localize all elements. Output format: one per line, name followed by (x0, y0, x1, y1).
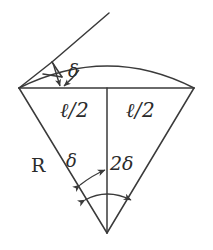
circular-arc (19, 66, 194, 88)
label-half-chord-right: ℓ/2 (126, 100, 155, 120)
label-delta-tangent-angle: δ (68, 62, 79, 80)
diagram-canvas (0, 0, 213, 250)
label-delta-half-apex-angle: δ (66, 152, 77, 170)
delta-angle-arc-arrow (80, 170, 105, 185)
label-half-chord-left: ℓ/2 (60, 100, 89, 120)
label-two-delta-apex-angle: 2δ (110, 154, 134, 173)
tangent-line (52, 13, 109, 62)
label-radius-R: R (31, 156, 45, 175)
two-delta-angle-arc-arrow (85, 194, 131, 200)
geometry-diagram: ℓ/2 ℓ/2 R δ δ 2δ (0, 0, 213, 250)
